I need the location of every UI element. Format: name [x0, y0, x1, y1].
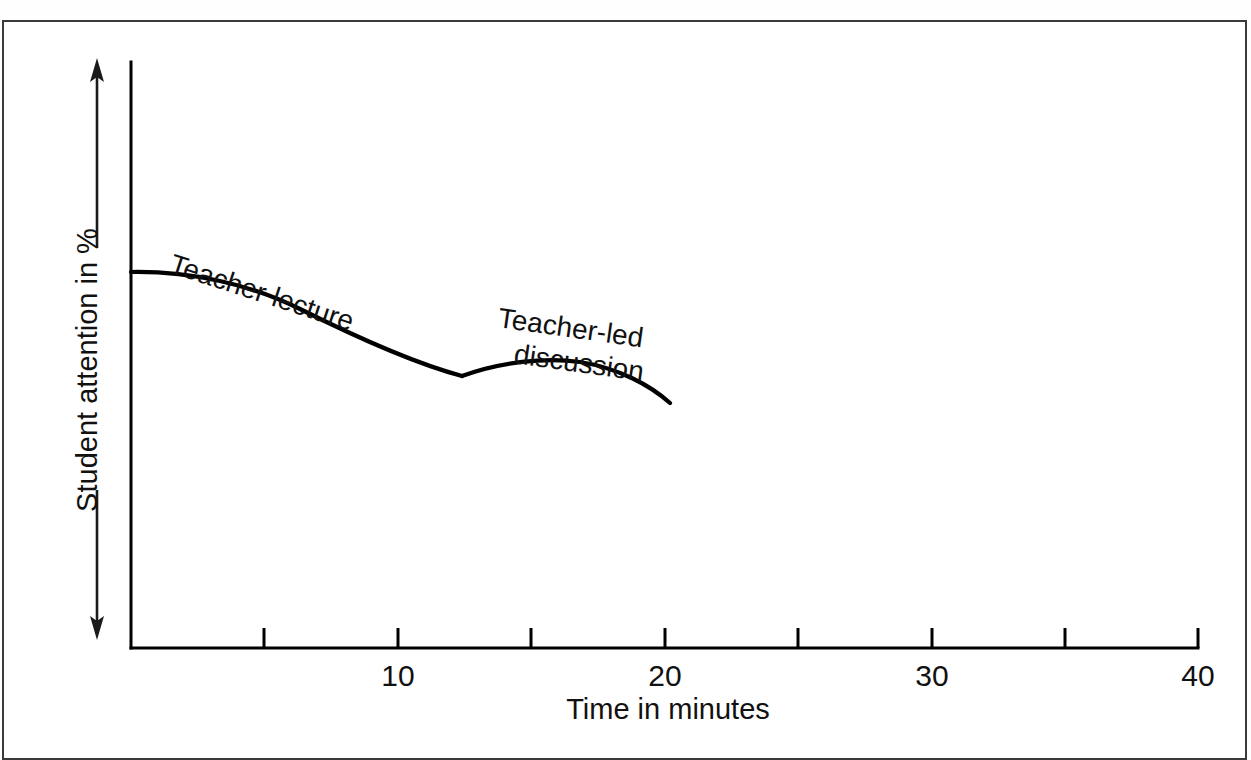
x-tick-label-20: 20 [648, 659, 681, 692]
x-axis-title: Time in minutes [566, 693, 770, 725]
x-tick-label-10: 10 [381, 659, 414, 692]
x-axis-ticks [264, 628, 1198, 648]
y-axis-title: Student attention in % [71, 228, 103, 512]
x-tick-label-40: 40 [1181, 659, 1214, 692]
series-annotation-teacher-lecture: Teacher lecture [166, 248, 358, 337]
chart-axes [131, 62, 1198, 648]
x-tick-label-30: 30 [915, 659, 948, 692]
